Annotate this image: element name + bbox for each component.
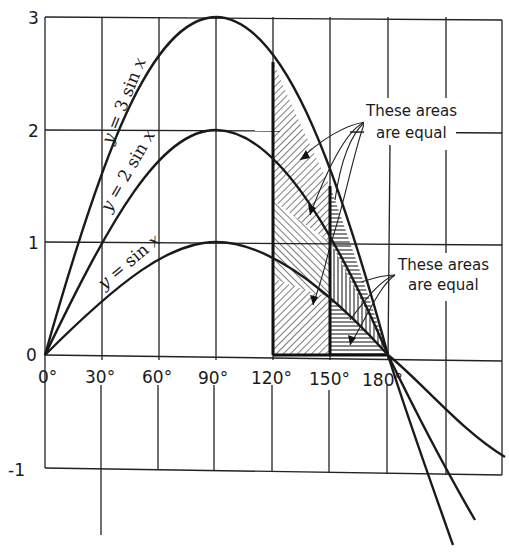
x-tick-180: 180° xyxy=(362,370,403,390)
y-tick-3: 3 xyxy=(28,8,39,28)
x-tick-150: 150° xyxy=(309,369,350,389)
curve-labels: y = 3 sin x y = 2 sin x y = sin x xyxy=(93,54,164,293)
annotation-bottom-line2: are equal xyxy=(408,276,479,294)
gridline-y2 xyxy=(45,130,280,131)
annotation-top-line1: These areas xyxy=(365,102,457,120)
annotation-top: These areas are equal xyxy=(364,98,457,144)
gridline-ym1 xyxy=(45,468,502,475)
y-axis-labels: 3 2 1 0 -1 xyxy=(8,8,39,480)
gridline-x180 xyxy=(388,145,390,360)
annotation-bottom-line1: These areas xyxy=(397,256,489,274)
x-axis-labels: 0° 30° 60° 90° 120° 150° 180° xyxy=(38,367,403,390)
y-tick-2: 2 xyxy=(28,121,39,141)
annotation-top-line2: are equal xyxy=(376,124,447,142)
x-tick-30: 30° xyxy=(85,367,115,387)
sine-curves-figure: 3 2 1 0 -1 0° 30° 60° 90° 120° 150° 180°… xyxy=(0,0,509,553)
y-tick-1: 1 xyxy=(28,233,39,253)
x-tick-120: 120° xyxy=(251,368,292,388)
y-tick-minus1: -1 xyxy=(8,460,25,480)
x-tick-60: 60° xyxy=(142,367,172,387)
x-tick-90: 90° xyxy=(198,368,228,388)
y-tick-0: 0 xyxy=(26,345,37,365)
x-tick-0: 0° xyxy=(38,367,57,387)
annotation-bottom: These areas are equal xyxy=(396,253,500,301)
